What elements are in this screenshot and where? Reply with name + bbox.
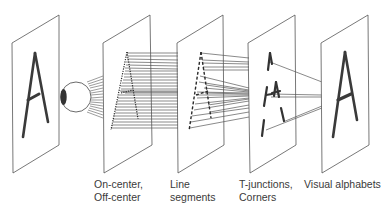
label-line-segments: Line segments [170,178,216,203]
label-t-junctions-corners: T-junctions, Corners [239,178,293,203]
panel-t-junctions-corners [248,15,296,173]
panel-input-image [12,15,59,173]
label-on-off-center: On-center, Off-center [94,178,143,203]
panel-line-segments [177,15,224,173]
connections-stage2-to-stage3 [111,53,178,128]
label-visual-alphabets: Visual alphabets [304,178,381,191]
panel-on-off-center [103,15,152,173]
eye-icon [60,76,103,118]
panel-visual-alphabets [321,15,369,173]
junction-fragments [262,53,284,136]
